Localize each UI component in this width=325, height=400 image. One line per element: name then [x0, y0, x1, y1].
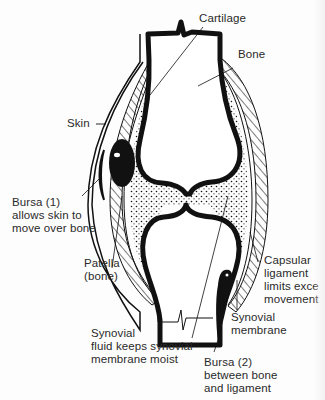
label-capsular-ligament: Capsular ligament limits exce movement — [264, 254, 319, 306]
label-bone: Bone — [238, 48, 265, 61]
label-cartilage: Cartilage — [199, 12, 246, 25]
label-synovial-fluid: Synovial fluid keeps synovial membrane m… — [91, 327, 193, 366]
knee-joint-diagram: Cartilage Bone Skin Bursa (1) allows ski… — [0, 0, 325, 400]
label-bursa-1: Bursa (1) allows skin to move over bone — [12, 196, 96, 235]
leader-bursa1 — [82, 178, 100, 196]
label-synovial-membrane: Synovial membrane — [231, 311, 287, 337]
bursa-1 — [100, 150, 105, 200]
femur-bone — [138, 22, 240, 194]
label-bursa-2: Bursa (2) between bone and ligament — [204, 356, 277, 395]
label-skin: Skin — [67, 117, 90, 130]
page-edge-shadow — [313, 0, 325, 400]
patella — [109, 139, 135, 187]
label-patella: Patella (bone) — [84, 257, 120, 283]
